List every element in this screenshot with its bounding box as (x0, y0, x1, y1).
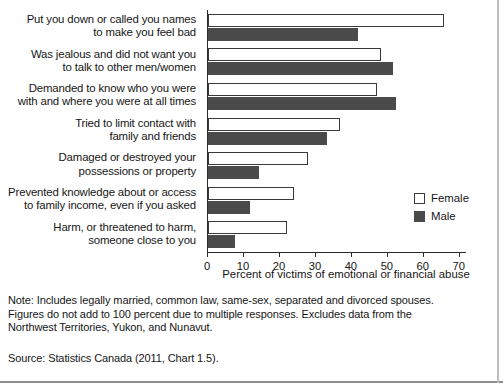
bar-female (208, 48, 381, 61)
legend-label: Female (431, 192, 469, 204)
bar-female (208, 83, 377, 96)
x-axis-title: Percent of victims of emotional or finan… (196, 268, 496, 280)
x-tick-50 (387, 252, 388, 257)
chart-legend: FemaleMale (414, 190, 494, 226)
x-tick-70 (459, 252, 460, 257)
legend-swatch-male-icon (414, 211, 425, 222)
bar-female (208, 118, 340, 131)
page-bottom-rule (0, 381, 503, 383)
category-label-line: Damaged or destroyed your (4, 151, 196, 164)
bar-female (208, 187, 294, 200)
category-label-line: Prevented knowledge about or access (4, 186, 196, 199)
bar-male (208, 28, 358, 41)
chart-source: Source: Statistics Canada (2011, Chart 1… (8, 352, 219, 364)
category-label: Demanded to know who you werewith and wh… (4, 82, 196, 108)
chart-plot-area: Put you down or called you namesto make … (0, 0, 503, 288)
note-line: Note: Includes legally married, common l… (8, 294, 488, 308)
bar-male (208, 235, 235, 248)
bar-female (208, 221, 287, 234)
note-line: Figures do not add to 100 percent due to… (8, 308, 488, 322)
category-label: Tried to limit contact withfamily and fr… (4, 117, 196, 143)
category-label-line: to talk to other men/women (4, 61, 196, 74)
bar-male (208, 132, 327, 145)
category-label-line: Tried to limit contact with (4, 117, 196, 130)
category-label-line: Demanded to know who you were (4, 82, 196, 95)
category-label-line: someone close to you (4, 234, 196, 247)
category-label-line: family and friends (4, 130, 196, 143)
legend-swatch-female-icon (414, 193, 425, 204)
legend-item-male[interactable]: Male (414, 208, 494, 224)
category-label: Was jealous and did not want youto talk … (4, 48, 196, 74)
x-tick-40 (351, 252, 352, 257)
category-label-line: Harm, or threatened to harm, (4, 221, 196, 234)
x-tick-0 (207, 252, 208, 257)
legend-item-female[interactable]: Female (414, 190, 494, 206)
chart-notes: Note: Includes legally married, common l… (8, 294, 488, 335)
category-label-line: Put you down or called you names (4, 13, 196, 26)
category-label: Harm, or threatened to harm,someone clos… (4, 221, 196, 247)
category-label-line: to make you feel bad (4, 26, 196, 39)
x-tick-60 (423, 252, 424, 257)
legend-label: Male (431, 210, 456, 222)
category-label: Prevented knowledge about or accessto fa… (4, 186, 196, 212)
note-line: Northwest Territories, Yukon, and Nunavu… (8, 321, 488, 335)
category-axis-labels: Put you down or called you namesto make … (4, 10, 202, 252)
category-label: Damaged or destroyed yourpossessions or … (4, 151, 196, 177)
x-axis-line (207, 252, 466, 253)
x-tick-30 (315, 252, 316, 257)
x-tick-20 (279, 252, 280, 257)
bar-male (208, 62, 393, 75)
bar-male (208, 97, 396, 110)
bar-female (208, 152, 308, 165)
category-label-line: with and where you were at all times (4, 95, 196, 108)
x-tick-10 (243, 252, 244, 257)
category-label-line: to family income, even if you asked (4, 199, 196, 212)
bar-female (208, 14, 444, 27)
category-label-line: possessions or property (4, 165, 196, 178)
bar-male (208, 201, 250, 214)
page-right-rule (497, 0, 499, 383)
bar-male (208, 166, 259, 179)
category-label: Put you down or called you namesto make … (4, 13, 196, 39)
chart-figure: Put you down or called you namesto make … (0, 0, 503, 385)
category-label-line: Was jealous and did not want you (4, 48, 196, 61)
